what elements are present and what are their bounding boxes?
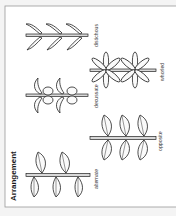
label-alternate: alternate bbox=[93, 169, 99, 189]
label-distichous: distichous bbox=[93, 24, 99, 47]
label-whorled: whorled bbox=[159, 63, 165, 81]
label-decussate: decussate bbox=[93, 84, 99, 108]
figure-title: Arrangement bbox=[9, 151, 18, 201]
leaf-arrangement-figure: Arrangement alternate bbox=[0, 0, 176, 216]
label-opposite: opposite bbox=[157, 131, 163, 151]
